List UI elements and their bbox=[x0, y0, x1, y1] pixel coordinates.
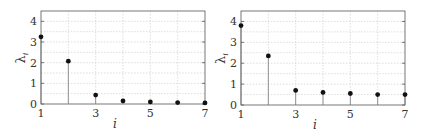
x-tick-label: 3 bbox=[292, 108, 299, 121]
right-stem-plot: 012341357iλi bbox=[200, 0, 412, 130]
x-tick-label: 1 bbox=[38, 107, 45, 120]
x-axis-label: i bbox=[113, 117, 117, 130]
y-tick-label: 1 bbox=[230, 78, 237, 91]
right-chart: 012341357iλi bbox=[200, 0, 412, 130]
stem-marker bbox=[93, 93, 98, 98]
left-stem-plot: 012341357iλi bbox=[0, 0, 212, 130]
x-tick-label: 5 bbox=[347, 108, 354, 121]
stem-marker bbox=[266, 54, 271, 59]
stem-marker bbox=[66, 59, 71, 64]
y-tick-label: 2 bbox=[30, 57, 37, 70]
y-tick-label: 0 bbox=[230, 99, 237, 112]
y-tick-label: 4 bbox=[30, 15, 37, 28]
y-tick-label: 2 bbox=[230, 57, 237, 70]
x-tick-label: 5 bbox=[147, 107, 154, 120]
x-tick-label: 7 bbox=[402, 108, 409, 121]
x-tick-label: 1 bbox=[238, 108, 245, 121]
y-tick-label: 4 bbox=[230, 15, 237, 28]
stem-marker bbox=[348, 91, 353, 96]
x-axis-label: i bbox=[313, 118, 317, 130]
stem-marker bbox=[148, 100, 153, 105]
y-tick-label: 3 bbox=[30, 36, 37, 49]
y-tick-label: 1 bbox=[30, 77, 37, 90]
stem-marker bbox=[321, 90, 326, 95]
grid bbox=[41, 11, 205, 104]
stem-marker bbox=[239, 23, 244, 28]
stem-marker bbox=[375, 92, 380, 97]
stem-marker bbox=[175, 100, 180, 105]
stem-marker bbox=[39, 34, 44, 39]
stem-marker bbox=[293, 88, 298, 93]
stem-marker bbox=[403, 92, 408, 97]
stem-marker bbox=[121, 99, 126, 104]
x-tick-label: 3 bbox=[92, 107, 99, 120]
y-tick-label: 3 bbox=[230, 36, 237, 49]
left-chart: 012341357iλi bbox=[0, 0, 212, 130]
y-tick-label: 0 bbox=[30, 98, 37, 111]
y-axis-label: λi bbox=[13, 52, 30, 63]
y-axis-label: λi bbox=[213, 53, 230, 64]
